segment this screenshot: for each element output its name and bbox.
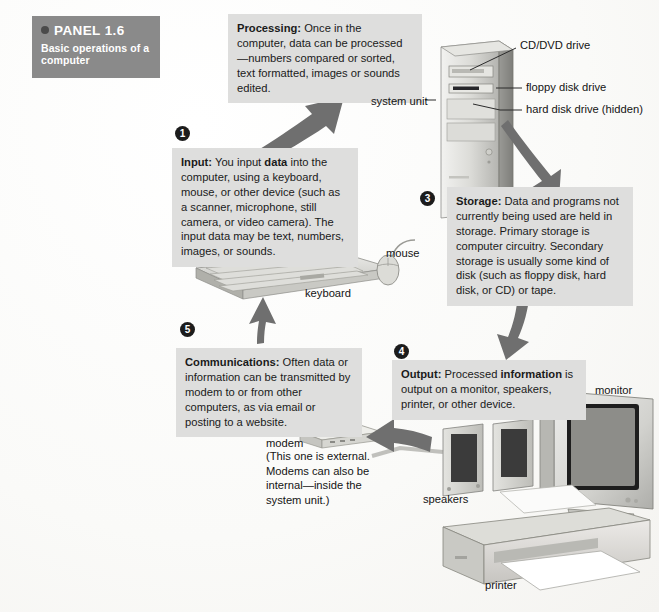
callout-storage: Storage: Data and programs not currently… xyxy=(447,187,633,306)
label-modem-note: (This one is external. Modems can also b… xyxy=(266,449,396,507)
arrow-communications-to-input xyxy=(249,297,276,344)
callout-output: Output: Processed information is output … xyxy=(392,360,586,420)
callout-input-text-1: You input xyxy=(212,156,264,168)
callout-input-heading: Input: xyxy=(181,156,212,168)
label-mouse: mouse xyxy=(386,246,420,261)
label-speakers: speakers xyxy=(423,492,468,507)
step-badge-3: 3 xyxy=(420,191,435,206)
callout-input-text-2: into the computer, using a keyboard, mou… xyxy=(181,156,344,257)
step-badge-1: 1 xyxy=(175,126,190,141)
label-hard-disk-drive: hard disk drive (hidden) xyxy=(526,102,643,117)
callout-communications: Communications: Often data or informatio… xyxy=(176,348,362,437)
system-unit-leader-lines xyxy=(425,48,522,110)
arrow-output-to-communications xyxy=(366,419,432,452)
callout-input-bold-1: data xyxy=(264,156,287,168)
callout-processing: Processing: Once in the computer, data c… xyxy=(228,14,422,103)
step-badge-4: 4 xyxy=(394,344,409,359)
bullet-dot-icon xyxy=(41,26,49,34)
panel-subtitle: Basic operations of a computer xyxy=(41,42,151,67)
callout-output-text-1: Processed xyxy=(441,368,500,380)
label-cd-dvd-drive: CD/DVD drive xyxy=(520,38,590,53)
panel-label: PANEL 1.6 xyxy=(54,23,125,38)
label-monitor: monitor xyxy=(595,383,632,398)
callout-communications-heading: Communications: xyxy=(185,356,279,368)
callout-output-bold-1: information xyxy=(500,368,562,380)
callout-storage-text: Data and programs not currently being us… xyxy=(456,195,619,296)
speakers-illustration xyxy=(372,419,533,496)
callout-output-heading: Output: xyxy=(401,368,441,380)
callout-storage-heading: Storage: xyxy=(456,195,501,207)
label-floppy-disk-drive: floppy disk drive xyxy=(526,80,606,95)
callout-input: Input: You input data into the computer,… xyxy=(172,148,358,267)
panel-figure: PANEL 1.6 Basic operations of a computer… xyxy=(0,0,659,612)
panel-label-line: PANEL 1.6 xyxy=(41,23,151,39)
step-badge-5: 5 xyxy=(180,322,195,337)
panel-title-block: PANEL 1.6 Basic operations of a computer xyxy=(32,16,160,78)
label-system-unit: system unit xyxy=(371,94,428,109)
label-keyboard: keyboard xyxy=(305,286,351,301)
printer-illustration xyxy=(443,485,650,590)
label-printer: printer xyxy=(485,578,517,593)
callout-processing-heading: Processing: xyxy=(237,22,301,34)
